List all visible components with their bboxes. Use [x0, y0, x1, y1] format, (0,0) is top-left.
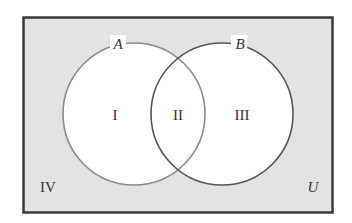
set-a-label: A: [112, 36, 123, 52]
region-iii-label: III: [235, 107, 250, 123]
set-b-label: B: [235, 36, 244, 52]
venn-diagram: A B I II III IV U: [0, 0, 352, 223]
region-i-label: I: [113, 107, 118, 123]
universe-label: U: [308, 179, 320, 195]
region-ii-label: II: [173, 107, 183, 123]
region-iv-label: IV: [40, 179, 56, 195]
